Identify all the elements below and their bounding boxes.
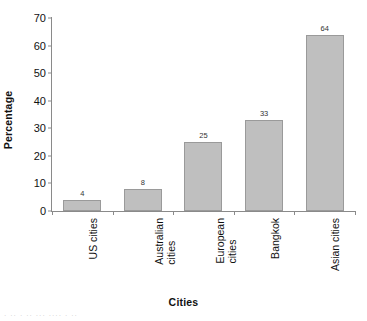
- x-axis-tick-mark: [234, 211, 235, 215]
- bar-slot: 33: [234, 18, 295, 211]
- scan-artifact-text: · ·· · ·· ··· ···· · ··: [4, 312, 234, 319]
- bar-value-label: 25: [199, 131, 207, 140]
- x-axis-tick-mark: [113, 211, 114, 215]
- bar-value-label: 33: [260, 109, 268, 118]
- x-axis-tick-mark: [52, 211, 53, 215]
- x-axis-line: [51, 211, 356, 212]
- x-axis-tick-mark: [173, 211, 174, 215]
- bar: [306, 35, 344, 211]
- bar-slot: 4: [52, 18, 113, 211]
- x-axis-category-label: Europeancities: [215, 218, 238, 264]
- bar-slot: 25: [173, 18, 234, 211]
- bar-value-label: 4: [80, 189, 84, 198]
- y-axis-title: Percentage: [2, 60, 16, 180]
- plot-area: 010203040506070 48253364: [52, 18, 355, 211]
- bar-value-label: 8: [141, 178, 145, 187]
- x-axis-category-label: Australiancities: [154, 218, 177, 265]
- bar: [124, 189, 162, 211]
- x-axis-category-label-line: Australian: [153, 218, 165, 265]
- bar: [184, 142, 222, 211]
- bar-slot: 64: [294, 18, 355, 211]
- bar-chart: Percentage 010203040506070 48253364 US c…: [0, 0, 367, 321]
- x-axis-title: Cities: [0, 296, 367, 308]
- x-axis-category-label: Asian cities: [330, 218, 342, 271]
- x-axis-category-label-line: European: [214, 218, 226, 264]
- bar-value-label: 64: [321, 24, 329, 33]
- x-axis-category-label-line: Bangkok: [269, 218, 281, 259]
- x-axis-category-label: Bangkok: [270, 218, 282, 259]
- bar: [245, 120, 283, 211]
- x-axis-category-label-line: cities: [227, 218, 239, 264]
- x-axis-category-label-line: Asian cities: [329, 218, 341, 271]
- x-axis-category-label-line: US cities: [87, 218, 99, 259]
- x-axis-category-label: US cities: [88, 218, 100, 259]
- x-axis-tick-mark: [294, 211, 295, 215]
- x-axis-tick-mark: [355, 211, 356, 215]
- bar-slot: 8: [113, 18, 174, 211]
- bar: [63, 200, 101, 211]
- x-axis-category-label-line: cities: [166, 218, 178, 265]
